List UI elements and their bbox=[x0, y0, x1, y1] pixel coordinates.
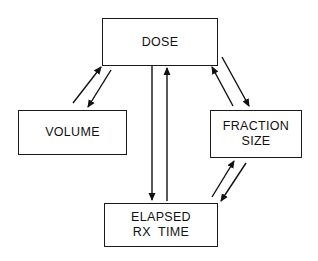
arrow-dose-to-fraction bbox=[222, 57, 249, 106]
arrow-elapsed-to-fraction bbox=[212, 161, 234, 197]
node-dose-label: DOSE bbox=[142, 35, 179, 50]
node-volume-label: VOLUME bbox=[45, 125, 100, 140]
arrow-fraction-to-dose bbox=[212, 67, 233, 106]
diagram-canvas: DOSE VOLUME FRACTION SIZE ELAPSED RX TIM… bbox=[0, 0, 318, 261]
node-volume: VOLUME bbox=[18, 110, 127, 155]
node-elapsed-label-2: RX TIME bbox=[133, 225, 189, 240]
node-fraction-size-label-2: SIZE bbox=[242, 134, 271, 149]
arrow-dose-to-volume bbox=[88, 70, 111, 107]
node-fraction-size-label-1: FRACTION bbox=[223, 119, 289, 134]
node-elapsed-rx-time: ELAPSED RX TIME bbox=[104, 203, 218, 247]
node-fraction-size: FRACTION SIZE bbox=[210, 110, 302, 158]
arrow-fraction-to-elapsed bbox=[221, 163, 246, 201]
node-dose: DOSE bbox=[102, 18, 218, 66]
node-elapsed-label-1: ELAPSED bbox=[131, 210, 191, 225]
arrow-volume-to-dose bbox=[73, 67, 101, 103]
